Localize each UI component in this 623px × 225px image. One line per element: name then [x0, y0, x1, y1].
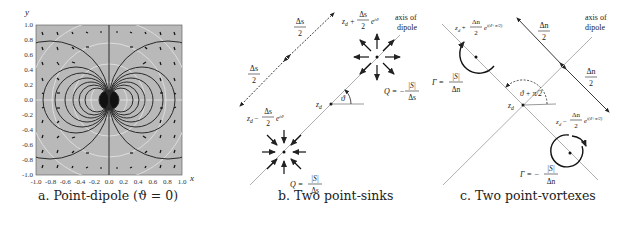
svg-text:0.6: 0.6: [148, 178, 157, 186]
svg-text:0.4: 0.4: [24, 66, 33, 74]
dipole-axis-line: [443, 37, 592, 185]
upper-point-label: zd+ Δs 2 eiϑ: [341, 10, 379, 31]
upper-strength-label: Q = − |S| Δs: [384, 81, 419, 102]
svg-text:0.2: 0.2: [24, 81, 33, 89]
svg-text:1.0: 1.0: [24, 21, 33, 29]
lower-vortex-arrowhead: [572, 136, 586, 146]
axis-of-dipole-label-b: axis of: [395, 13, 417, 22]
y-axis-ticks: 1.0 0.8 0.6 0.4 0.2 0.0 -0.2 -0.4 -0.6 -…: [22, 21, 34, 179]
half-spacing-top-num: Δn: [539, 21, 548, 30]
upper-vortex-center: [475, 56, 478, 59]
svg-text:zd+: zd+: [341, 17, 355, 27]
svg-text:0.8: 0.8: [163, 178, 172, 186]
half-spacing-top-num: Δs: [296, 17, 304, 26]
normal-line: [442, 24, 598, 180]
svg-text:Δn: Δn: [547, 177, 556, 186]
svg-text:1.0: 1.0: [178, 178, 187, 186]
lower-vortex-center: [569, 152, 572, 155]
svg-text:-1.0: -1.0: [30, 178, 42, 186]
caption-panel-b: b. Two point-sinks: [278, 188, 393, 203]
svg-text:zd+: zd+: [454, 24, 466, 33]
y-axis-label: y: [24, 7, 29, 17]
x-axis-label: x: [189, 173, 194, 183]
svg-text:zd−: zd−: [246, 114, 259, 124]
spacing-arrows: [240, 13, 334, 106]
lower-strength-label: Γ = − |S| Δn: [519, 164, 558, 186]
svg-text:0.0: 0.0: [105, 178, 114, 186]
svg-text:ei(ϑ+π/2): ei(ϑ+π/2): [484, 23, 503, 32]
svg-text:eiϑ: eiϑ: [276, 114, 284, 123]
svg-text:eiϑ: eiϑ: [371, 17, 379, 26]
lower-point-marker: [283, 151, 286, 154]
svg-text:0.4: 0.4: [134, 178, 143, 186]
svg-text:2: 2: [361, 22, 365, 31]
svg-text:Δs: Δs: [408, 93, 416, 102]
svg-text:0.2: 0.2: [119, 178, 128, 186]
svg-text:dipole: dipole: [585, 23, 605, 32]
svg-text:2: 2: [542, 33, 546, 42]
svg-text:0.0: 0.0: [24, 96, 33, 104]
center-label: zd: [315, 100, 322, 110]
svg-text:-0.6: -0.6: [60, 178, 72, 186]
angle-label: ϑ + π/2: [520, 89, 542, 98]
half-spacing-bottom-num: Δs: [250, 64, 258, 73]
axis-of-dipole-label-c: axis of: [585, 13, 607, 22]
svg-text:|S|: |S|: [408, 81, 416, 90]
svg-text:ei(ϑ+π/2): ei(ϑ+π/2): [584, 116, 603, 125]
angle-arc: [345, 90, 351, 104]
svg-text:Δn: Δn: [472, 18, 481, 26]
angle-label: ϑ: [341, 94, 346, 103]
center-label: zd: [507, 101, 514, 111]
svg-text:0.6: 0.6: [24, 51, 33, 59]
svg-text:0.8: 0.8: [24, 36, 33, 44]
svg-text:|S|: |S|: [311, 174, 319, 183]
svg-text:|S|: |S|: [547, 164, 555, 173]
caption-panel-c: c. Two point-vortexes: [460, 188, 596, 203]
upper-strength-label: Γ = |S| Δn: [431, 72, 463, 94]
lower-point-label: zd− Δn 2 ei(ϑ+π/2): [555, 111, 603, 130]
svg-text:-0.4: -0.4: [22, 126, 34, 134]
svg-text:|S|: |S|: [452, 72, 460, 81]
svg-text:Γ =: Γ =: [431, 78, 444, 87]
svg-text:-0.4: -0.4: [74, 178, 86, 186]
x-axis-ticks: -1.0 -0.8 -0.6 -0.4 -0.2 0.0 0.2 0.4 0.6…: [30, 178, 186, 186]
svg-text:Δs: Δs: [264, 107, 272, 116]
svg-text:2: 2: [589, 79, 593, 88]
svg-text:Δn: Δn: [572, 111, 581, 119]
svg-text:2: 2: [252, 76, 256, 85]
svg-text:2: 2: [474, 29, 478, 37]
svg-text:2: 2: [298, 29, 302, 38]
svg-text:-0.8: -0.8: [22, 156, 34, 164]
svg-text:zd−: zd−: [555, 118, 567, 127]
reference-horizontal: [523, 104, 556, 105]
svg-text:Q = −: Q = −: [384, 87, 405, 96]
upper-point-marker: [376, 56, 379, 59]
svg-text:-0.8: -0.8: [45, 178, 57, 186]
panel-b-two-point-sinks: Δs 2 Δs 2 zd+ Δs 2 eiϑ axis of dipole: [240, 10, 419, 195]
panel-a-point-dipole-plot: 1.0 0.8 0.6 0.4 0.2 0.0 -0.2 -0.4 -0.6 -…: [0, 7, 227, 186]
svg-text:Δs: Δs: [359, 10, 367, 19]
svg-text:-0.2: -0.2: [89, 178, 101, 186]
half-spacing-bottom-num: Δn: [586, 67, 595, 76]
svg-text:-0.6: -0.6: [22, 141, 34, 149]
svg-text:Γ = −: Γ = −: [519, 170, 539, 179]
svg-text:2: 2: [574, 122, 578, 130]
svg-text:2: 2: [266, 119, 270, 128]
svg-text:dipole: dipole: [397, 23, 417, 32]
panel-c-two-point-vortexes: Δn 2 Δn 2 axis of dipole zd+ Δn 2 ei(ϑ+π…: [431, 13, 609, 186]
lower-point-label: zd− Δs 2 eiϑ: [246, 107, 284, 128]
caption-panel-a: a. Point-dipole (ϑ = 0): [38, 188, 178, 203]
svg-text:-0.2: -0.2: [22, 111, 34, 119]
svg-text:Δn: Δn: [452, 85, 461, 94]
upper-point-label: zd+ Δn 2 ei(ϑ+π/2): [454, 18, 503, 37]
